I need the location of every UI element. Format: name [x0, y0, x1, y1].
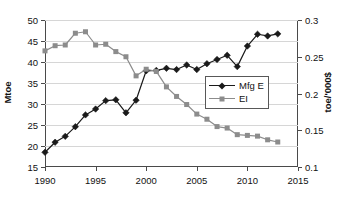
data-point-marker-square	[154, 69, 159, 74]
data-point-marker-square	[265, 137, 270, 142]
data-point-marker-square	[93, 42, 98, 47]
y-axis-left-tick-label: 20	[27, 141, 38, 152]
data-point-marker-square	[144, 67, 149, 72]
data-point-marker-square	[53, 43, 58, 48]
y-axis-right-tick-label: 0.25	[305, 51, 324, 62]
data-point-marker-square	[63, 42, 68, 47]
y-axis-left-tick-label: 15	[27, 162, 38, 173]
y-axis-right-tick-label: 0.3	[305, 15, 318, 26]
data-point-marker-diamond	[163, 65, 169, 71]
y-axis-left-tick-label: 30	[27, 99, 38, 110]
y-axis-left-tick-label: 50	[27, 15, 38, 26]
y-axis-right-tick-label: 0.1	[305, 162, 318, 173]
data-point-marker-square	[245, 133, 250, 138]
data-point-marker-diamond	[173, 66, 179, 72]
data-point-marker-square	[134, 73, 139, 78]
legend-item: Mfg E	[209, 79, 264, 92]
y-axis-right-tick	[298, 94, 302, 95]
data-point-marker-square	[164, 84, 169, 89]
data-point-marker-diamond	[214, 56, 220, 62]
legend-marker-sample	[209, 93, 235, 104]
x-axis-tick	[197, 167, 198, 171]
x-axis-tick	[247, 167, 248, 171]
data-point-marker-square	[204, 117, 209, 122]
data-point-marker-square	[184, 102, 189, 107]
y-axis-right-tick	[298, 20, 302, 21]
y-axis-right-tick-label: 0.2	[305, 88, 318, 99]
legend-item: EI	[209, 92, 264, 105]
x-axis-tick-label: 2015	[287, 175, 308, 186]
chart-legend: Mfg EEI	[205, 76, 269, 109]
data-point-marker-square	[43, 48, 48, 53]
data-point-marker-square	[73, 31, 78, 36]
data-point-marker-square	[113, 49, 118, 54]
data-point-marker-square	[215, 124, 220, 129]
y-axis-right-tick	[298, 57, 302, 58]
data-point-marker-diamond	[194, 66, 200, 72]
chart-figure: Mtoe toe/'000$ 1520253035404550 0.10.150…	[0, 0, 347, 199]
legend-label: Mfg E	[239, 80, 264, 91]
y-axis-left-tick-label: 40	[27, 57, 38, 68]
data-point-marker-diamond	[275, 31, 281, 37]
legend-label: EI	[239, 93, 248, 104]
y-axis-left-tick-label: 25	[27, 120, 38, 131]
data-point-marker-diamond	[204, 60, 210, 66]
data-point-marker-square	[225, 126, 230, 131]
x-axis-tick	[96, 167, 97, 171]
x-axis-tick	[146, 167, 147, 171]
x-axis-tick-label: 1995	[85, 175, 106, 186]
data-point-marker-square	[103, 42, 108, 47]
plot-area: 1520253035404550 0.10.150.20.250.3 19901…	[45, 20, 298, 167]
x-axis-tick-label: 2000	[136, 175, 157, 186]
y-axis-right-title: toe/'000$	[322, 73, 333, 113]
y-axis-right-tick	[298, 130, 302, 131]
legend-square-icon	[220, 96, 225, 101]
legend-diamond-icon	[218, 82, 225, 89]
data-point-marker-diamond	[183, 62, 189, 68]
data-point-marker-square	[255, 134, 260, 139]
y-axis-left-tick-label: 45	[27, 36, 38, 47]
x-axis-tick-label: 1990	[34, 175, 55, 186]
x-axis-tick-label: 2005	[186, 175, 207, 186]
data-point-marker-square	[123, 54, 128, 59]
x-axis-tick	[298, 167, 299, 171]
x-axis-tick	[45, 167, 46, 171]
legend-marker-sample	[209, 80, 235, 91]
x-axis-tick-label: 2010	[237, 175, 258, 186]
data-point-marker-square	[235, 132, 240, 137]
y-axis-left-tick-label: 35	[27, 78, 38, 89]
y-axis-right-tick-label: 0.15	[305, 125, 324, 136]
data-point-marker-square	[83, 29, 88, 34]
data-point-marker-diamond	[264, 33, 270, 39]
data-point-marker-square	[194, 112, 199, 117]
data-point-marker-square	[275, 140, 280, 145]
data-point-marker-square	[174, 94, 179, 99]
y-axis-left-title: Mtoe	[2, 73, 13, 113]
